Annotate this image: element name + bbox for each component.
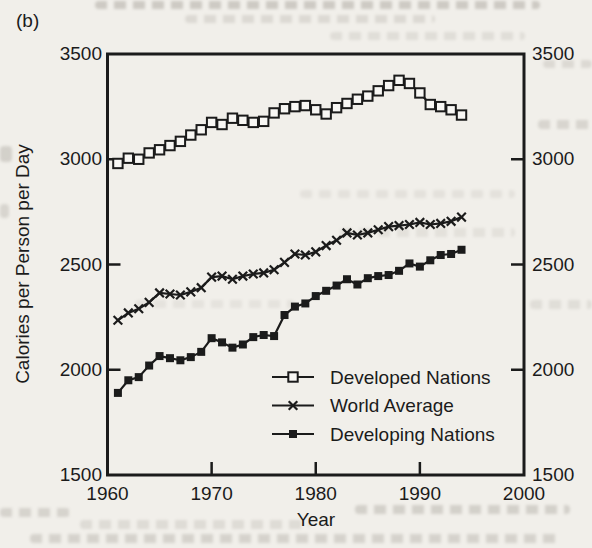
point-developing-nations-1988-filled-square-marker [395, 267, 403, 275]
legend-label-world-average: World Average [330, 395, 454, 416]
y-axis-label-right-3500: 3500 [532, 43, 592, 65]
y-axis-label-right-3000: 3000 [532, 148, 592, 170]
x-axis-label-2000: 2000 [496, 483, 552, 505]
point-developed-nations-1961-open-square-marker [113, 159, 122, 168]
point-developed-nations-1983-open-square-marker [342, 99, 351, 108]
point-developed-nations-1978-open-square-marker [290, 102, 299, 111]
x-axis-label-1970: 1970 [184, 483, 240, 505]
y-axis-label-right-2000: 2000 [532, 359, 592, 381]
point-developed-nations-1989-open-square-marker [405, 79, 414, 88]
point-developed-nations-1975-open-square-marker [259, 117, 268, 126]
point-developed-nations-1964-open-square-marker [144, 148, 153, 157]
y-axis-label-left-3500: 3500 [54, 43, 102, 65]
point-developed-nations-1982-open-square-marker [332, 103, 341, 112]
point-developed-nations-1984-open-square-marker [353, 95, 362, 104]
point-developing-nations-1980-filled-square-marker [312, 292, 320, 300]
x-axis-label-1960: 1960 [80, 483, 136, 505]
point-developed-nations-1973-open-square-marker [238, 116, 247, 125]
point-developed-nations-1976-open-square-marker [269, 108, 278, 117]
y-axis-label-left-2000: 2000 [54, 359, 102, 381]
point-developing-nations-1966-filled-square-marker [166, 354, 174, 362]
point-developing-nations-1985-filled-square-marker [364, 274, 372, 282]
x-axis-label-1990: 1990 [392, 483, 448, 505]
series-line-world-average [118, 217, 462, 320]
point-developed-nations-1966-open-square-marker [165, 141, 174, 150]
x-axis-label-1980: 1980 [288, 483, 344, 505]
point-developed-nations-1994-open-square-marker [457, 110, 466, 119]
point-developing-nations-1978-filled-square-marker [291, 303, 299, 311]
point-developed-nations-1988-open-square-marker [394, 76, 403, 85]
point-developed-nations-1969-open-square-marker [197, 125, 206, 134]
point-developed-nations-1971-open-square-marker [217, 120, 226, 129]
point-developing-nations-1981-filled-square-marker [322, 287, 330, 295]
point-developed-nations-1990-open-square-marker [415, 88, 424, 97]
point-developing-nations-1973-filled-square-marker [239, 340, 247, 348]
point-developed-nations-1963-open-square-marker [134, 155, 143, 164]
point-developed-nations-1991-open-square-marker [426, 100, 435, 109]
point-developing-nations-1984-filled-square-marker [353, 280, 361, 288]
point-developing-nations-1989-filled-square-marker [405, 259, 413, 267]
point-developing-nations-1982-filled-square-marker [333, 282, 341, 290]
legend-developed-nations-open-square-marker [288, 372, 297, 381]
point-developing-nations-1974-filled-square-marker [249, 333, 257, 341]
point-developed-nations-1981-open-square-marker [321, 109, 330, 118]
y-axis-label-left-3000: 3000 [54, 148, 102, 170]
scanned-book-page: (b) Calories per Person per Day Year Dev… [0, 0, 592, 548]
point-developed-nations-1968-open-square-marker [186, 130, 195, 139]
point-developing-nations-1968-filled-square-marker [187, 353, 195, 361]
point-developing-nations-1961-filled-square-marker [114, 389, 122, 397]
legend-developing-nations-filled-square-marker [289, 430, 297, 438]
point-developing-nations-1977-filled-square-marker [281, 311, 289, 319]
point-developing-nations-1983-filled-square-marker [343, 275, 351, 283]
legend-label-developed-nations: Developed Nations [330, 367, 491, 388]
point-developed-nations-1970-open-square-marker [207, 118, 216, 127]
point-developed-nations-1965-open-square-marker [155, 145, 164, 154]
y-axis-label-right-2500: 2500 [532, 254, 592, 276]
point-developed-nations-1967-open-square-marker [176, 137, 185, 146]
point-developing-nations-1992-filled-square-marker [437, 251, 445, 259]
point-developed-nations-1962-open-square-marker [124, 153, 133, 162]
point-developing-nations-1979-filled-square-marker [301, 299, 309, 307]
point-developing-nations-1965-filled-square-marker [156, 352, 164, 360]
y-axis-label-left-2500: 2500 [54, 254, 102, 276]
point-developing-nations-1971-filled-square-marker [218, 338, 226, 346]
point-developing-nations-1993-filled-square-marker [447, 250, 455, 258]
point-developed-nations-1979-open-square-marker [301, 101, 310, 110]
legend-label-developing-nations: Developing Nations [330, 424, 495, 445]
point-developed-nations-1985-open-square-marker [363, 91, 372, 100]
point-developed-nations-1980-open-square-marker [311, 105, 320, 114]
point-developing-nations-1975-filled-square-marker [260, 331, 268, 339]
point-developing-nations-1990-filled-square-marker [416, 263, 424, 271]
point-developing-nations-1976-filled-square-marker [270, 332, 278, 340]
point-developed-nations-1987-open-square-marker [384, 81, 393, 90]
point-developed-nations-1972-open-square-marker [228, 114, 237, 123]
point-developing-nations-1986-filled-square-marker [374, 272, 382, 280]
point-developing-nations-1964-filled-square-marker [145, 362, 153, 370]
point-developing-nations-1994-filled-square-marker [458, 246, 466, 254]
point-developing-nations-1991-filled-square-marker [426, 256, 434, 264]
point-developed-nations-1974-open-square-marker [249, 118, 258, 127]
point-developing-nations-1963-filled-square-marker [135, 373, 143, 381]
point-developed-nations-1977-open-square-marker [280, 104, 289, 113]
point-developing-nations-1972-filled-square-marker [228, 344, 236, 352]
point-developed-nations-1993-open-square-marker [446, 105, 455, 114]
point-developing-nations-1962-filled-square-marker [124, 376, 132, 384]
point-developing-nations-1970-filled-square-marker [208, 334, 216, 342]
point-developing-nations-1969-filled-square-marker [197, 348, 205, 356]
point-developing-nations-1987-filled-square-marker [385, 271, 393, 279]
point-developed-nations-1986-open-square-marker [374, 86, 383, 95]
point-developed-nations-1992-open-square-marker [436, 102, 445, 111]
point-developing-nations-1967-filled-square-marker [176, 356, 184, 364]
